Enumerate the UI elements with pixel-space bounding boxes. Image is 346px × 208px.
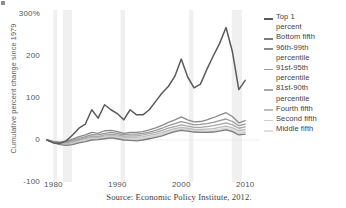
legend-item: Middle fifth	[264, 124, 346, 134]
legend-swatch-icon	[264, 89, 273, 91]
y-axis-tick-label: 100	[4, 93, 40, 102]
x-axis-tick-label: 1980	[33, 180, 73, 189]
y-axis-tick-label: 200	[4, 51, 40, 60]
legend-swatch-icon	[264, 18, 273, 20]
recession-band	[53, 10, 57, 182]
legend-swatch-icon	[264, 109, 273, 111]
y-axis-tick-label: 0	[4, 135, 40, 144]
legend-item-label: Bottom fifth	[276, 32, 315, 42]
x-axis-tick-label: 1990	[97, 180, 137, 189]
source-note: Source: Economic Policy Institute, 2012.	[64, 192, 294, 202]
legend-item: 91st-95th percentile	[264, 63, 346, 83]
legend-item-label: 91st-95th percentile	[276, 63, 309, 83]
x-axis-tick-label: 2010	[225, 180, 265, 189]
chart-legend: Top 1 percentBottom fifth96th-99th perce…	[264, 12, 346, 134]
legend-item: 81st-90th percentile	[264, 83, 346, 103]
chart-figure: Cumulative percent change since 1979 300…	[0, 0, 346, 208]
legend-swatch-icon	[264, 48, 273, 50]
legend-item: Second fifth	[264, 114, 346, 124]
legend-item-label: 96th-99th percentile	[276, 43, 309, 63]
recession-band	[232, 10, 242, 182]
legend-item-label: Middle fifth	[276, 124, 313, 134]
legend-swatch-icon	[264, 69, 273, 71]
recession-band	[63, 10, 72, 182]
legend-swatch-icon	[264, 130, 273, 132]
recession-band	[189, 10, 193, 182]
legend-item: 96th-99th percentile	[264, 43, 346, 63]
legend-item-label: Second fifth	[276, 114, 317, 124]
legend-item: Bottom fifth	[264, 32, 346, 42]
series-line	[47, 27, 245, 143]
legend-swatch-icon	[264, 120, 273, 122]
legend-item-label: Top 1 percent	[276, 12, 302, 32]
legend-item-label: 81st-90th percentile	[276, 83, 309, 103]
legend-item: Fourth fifth	[264, 104, 346, 114]
x-axis-tick-label: 2000	[161, 180, 201, 189]
legend-swatch-icon	[264, 38, 273, 40]
legend-item-label: Fourth fifth	[276, 104, 313, 114]
y-axis-tick-label: 300%	[4, 9, 40, 18]
recession-band	[121, 10, 125, 182]
legend-item: Top 1 percent	[264, 12, 346, 32]
